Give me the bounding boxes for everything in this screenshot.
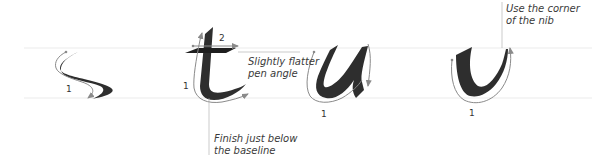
- stroke-number-s-1: 1: [66, 84, 72, 94]
- annotation-line: the baseline: [214, 145, 297, 157]
- letter-u-ink: [316, 45, 368, 98]
- annotation-line: Finish just below: [214, 133, 297, 145]
- annotation-line: of the nib: [506, 15, 580, 27]
- stroke-number-t-1: 1: [183, 81, 189, 91]
- stroke-start-dot: [65, 51, 68, 54]
- annotation-line: Use the corner: [506, 3, 580, 15]
- annotation-line: pen angle: [248, 68, 319, 80]
- annotation-finish-baseline: Finish just below the baseline: [214, 133, 297, 157]
- stroke-path-u-2: [368, 44, 370, 86]
- stroke-number-t-2: 2: [219, 33, 225, 43]
- stroke-start-dot: [192, 45, 195, 48]
- letter-v: [451, 2, 511, 103]
- letter-t-crossbar-ink: [185, 48, 236, 53]
- calligraphy-stroke-diagram: 1 1 2 1 1 Slightly flatter pen angle Fin…: [0, 0, 592, 162]
- letter-s: [55, 51, 112, 99]
- stroke-path-t-1-top: [200, 33, 202, 40]
- stroke-start-dot: [451, 59, 454, 62]
- annotation-nib-corner: Use the corner of the nib: [506, 3, 580, 27]
- annotation-crossbar-angle: Slightly flatter pen angle: [248, 56, 319, 80]
- stroke-number-v-1: 1: [469, 108, 475, 118]
- stroke-number-u-1: 1: [321, 109, 327, 119]
- letter-v-ink: [456, 47, 508, 97]
- annotation-line: Slightly flatter: [248, 56, 319, 68]
- stroke-start-dot: [313, 51, 316, 54]
- stroke-path-s-1: [55, 52, 92, 98]
